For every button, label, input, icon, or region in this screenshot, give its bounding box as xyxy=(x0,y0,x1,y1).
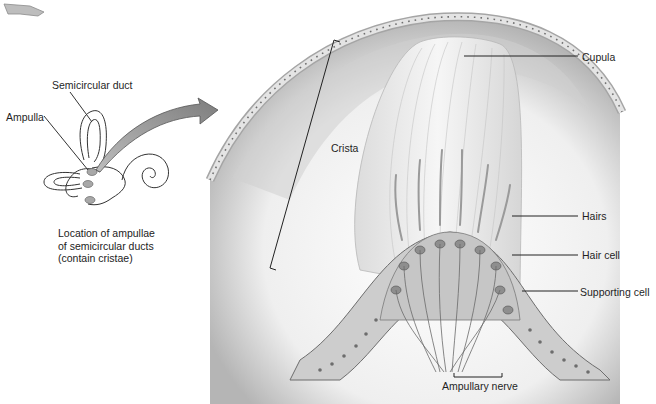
caption-line-1: Location of ampullae xyxy=(58,227,155,240)
ampullae-markers xyxy=(83,169,97,204)
label-hair-cell: Hair cell xyxy=(582,249,620,261)
corner-fragment xyxy=(4,4,44,16)
label-ampullary-nerve: Ampullary nerve xyxy=(442,380,518,392)
label-crista: Crista xyxy=(331,142,358,154)
inner-ear-inset xyxy=(44,92,169,205)
pointer-arrow xyxy=(96,98,218,172)
label-cupula: Cupula xyxy=(582,51,615,63)
caption-line-3: (contain cristae) xyxy=(58,252,155,265)
inset-caption: Location of ampullae of semicircular duc… xyxy=(58,227,155,265)
caption-line-2: of semicircular ducts xyxy=(58,240,155,253)
diagram-artwork xyxy=(0,0,656,404)
label-semicircular-duct: Semicircular duct xyxy=(52,79,133,91)
label-ampulla: Ampulla xyxy=(6,111,44,123)
label-hairs: Hairs xyxy=(582,210,607,222)
crista-ampullaris-figure: Semicircular duct Ampulla Location of am… xyxy=(0,0,656,404)
label-supporting-cell: Supporting cell xyxy=(580,286,649,298)
